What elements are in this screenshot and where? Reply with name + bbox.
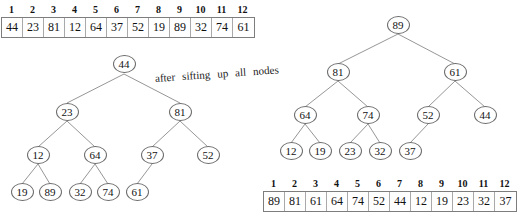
array-cell: 23: [453, 192, 474, 211]
tree-node: 12: [27, 146, 50, 164]
tree-node: 32: [69, 183, 92, 201]
array-index: 10: [452, 177, 473, 191]
array-cell: 44: [2, 18, 23, 37]
array-cell: 81: [44, 18, 65, 37]
array-cell: 23: [23, 18, 44, 37]
result-array-index-row: 1 2 3 4 5 6 7 8 9 10 11 12: [263, 177, 517, 191]
caption-word: up: [217, 67, 229, 80]
tree-node: 81: [327, 63, 350, 81]
array-index: 3: [43, 3, 64, 17]
left-tree-edges: [22, 74, 208, 184]
initial-array: 1 2 3 4 5 6 7 8 9 10 11 12 44 23 81 12 6…: [1, 3, 255, 38]
array-cell: 64: [86, 18, 107, 37]
array-index: 11: [473, 177, 494, 191]
array-index: 5: [85, 3, 106, 17]
array-index: 5: [347, 177, 368, 191]
array-index: 9: [431, 177, 452, 191]
tree-node: 19: [309, 142, 332, 160]
tree-node: 23: [56, 103, 79, 121]
tree-node: 23: [339, 142, 362, 160]
tree-node: 89: [39, 183, 62, 201]
array-cell: 52: [369, 192, 390, 211]
tree-node: 74: [97, 183, 120, 201]
array-cell: 64: [327, 192, 348, 211]
array-cell: 12: [65, 18, 86, 37]
tree-node: 44: [474, 106, 497, 124]
array-index: 2: [22, 3, 43, 17]
initial-array-value-row: 44 23 81 12 64 37 52 19 89 32 74 61: [1, 17, 255, 38]
array-index: 7: [389, 177, 410, 191]
caption-word: nodes: [253, 63, 279, 77]
array-index: 12: [494, 177, 515, 191]
array-index: 6: [106, 3, 127, 17]
tree-node: 37: [141, 146, 164, 164]
array-index: 12: [232, 3, 253, 17]
array-cell: 89: [264, 192, 285, 211]
tree-node: 37: [399, 142, 422, 160]
array-cell: 74: [348, 192, 369, 211]
array-cell: 61: [233, 18, 254, 37]
array-cell: 81: [285, 192, 306, 211]
array-index: 9: [169, 3, 190, 17]
array-cell: 44: [390, 192, 411, 211]
array-index: 7: [127, 3, 148, 17]
initial-array-index-row: 1 2 3 4 5 6 7 8 9 10 11 12: [1, 3, 255, 17]
array-index: 8: [410, 177, 431, 191]
caption-word: sifting: [182, 68, 211, 82]
caption-word: after: [155, 71, 176, 84]
tree-node: 81: [169, 103, 192, 121]
tree-node: 64: [294, 106, 317, 124]
tree-node: 12: [280, 142, 303, 160]
array-cell: 52: [128, 18, 149, 37]
array-cell: 12: [411, 192, 432, 211]
array-cell: 19: [432, 192, 453, 211]
array-index: 4: [326, 177, 347, 191]
result-array: 1 2 3 4 5 6 7 8 9 10 11 12 89 81 61 64 7…: [263, 177, 517, 212]
array-cell: 37: [495, 192, 516, 211]
array-cell: 61: [306, 192, 327, 211]
tree-node: 61: [126, 183, 149, 201]
array-index: 4: [64, 3, 85, 17]
result-array-value-row: 89 81 61 64 74 52 44 12 19 23 32 37: [263, 191, 517, 212]
tree-node: 61: [444, 63, 467, 81]
array-cell: 89: [170, 18, 191, 37]
tree-node: 52: [417, 106, 440, 124]
array-index: 11: [211, 3, 232, 17]
array-index: 6: [368, 177, 389, 191]
array-cell: 37: [107, 18, 128, 37]
caption-word: all: [235, 66, 247, 79]
array-index: 2: [284, 177, 305, 191]
tree-node: 64: [84, 146, 107, 164]
array-index: 3: [305, 177, 326, 191]
tree-node: 89: [387, 16, 410, 34]
tree-node: 74: [357, 106, 380, 124]
array-cell: 32: [191, 18, 212, 37]
right-tree-edges: [291, 34, 485, 143]
array-cell: 74: [212, 18, 233, 37]
array-index: 1: [263, 177, 284, 191]
tree-node: 19: [11, 183, 34, 201]
tree-node: 44: [113, 55, 136, 73]
tree-node: 32: [369, 142, 392, 160]
array-index: 10: [190, 3, 211, 17]
array-cell: 32: [474, 192, 495, 211]
array-index: 1: [1, 3, 22, 17]
tree-node: 52: [197, 146, 220, 164]
array-cell: 19: [149, 18, 170, 37]
array-index: 8: [148, 3, 169, 17]
